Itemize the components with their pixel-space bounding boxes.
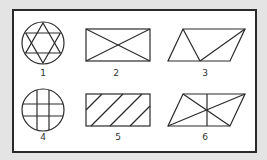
- figure-5-label: 5: [115, 133, 121, 142]
- figure-4-circle-grid: [22, 89, 64, 131]
- figure-4-label: 4: [40, 133, 46, 142]
- figure-6-label: 6: [202, 133, 208, 142]
- figure-6-parallelogram-diagonals: [168, 94, 245, 126]
- figure-2-rectangle-diagonals: [86, 29, 150, 61]
- figure-2-label: 2: [113, 69, 119, 78]
- figure-1-label: 1: [40, 69, 46, 78]
- figure-5-rectangle-hatched: [86, 94, 150, 126]
- figure-3-parallelogram-triangles: [168, 29, 245, 61]
- figure-3-label: 3: [202, 69, 208, 78]
- figure-1-circle-hexagram: [22, 22, 64, 64]
